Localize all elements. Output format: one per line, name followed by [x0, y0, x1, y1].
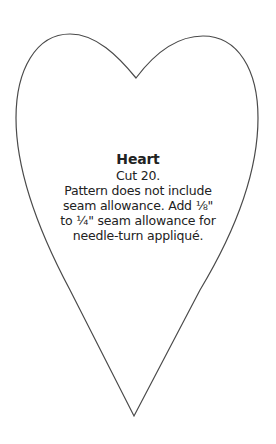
pattern-title: Heart: [0, 151, 276, 168]
instruction-line: to ¼" seam allowance for: [0, 213, 276, 228]
pattern-label: Heart Cut 20. Pattern does not include s…: [0, 151, 276, 243]
instruction-line: needle-turn appliqué.: [0, 228, 276, 243]
cut-count: Cut 20.: [0, 168, 276, 183]
instruction-line: seam allowance. Add ⅛": [0, 198, 276, 213]
instruction-line: Pattern does not include: [0, 183, 276, 198]
